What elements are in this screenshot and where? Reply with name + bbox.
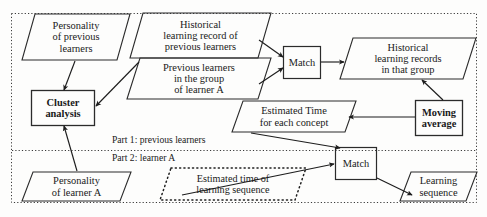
node-shape-moving-average — [416, 101, 463, 136]
node-shape-historical-records-group — [340, 38, 476, 79]
edge-personality-learner-a-to-cluster — [64, 126, 77, 171]
edge-match2-to-learning-sequence — [377, 178, 412, 195]
diagram-vector-layer — [0, 0, 487, 217]
node-shape-historical-record-previous — [130, 13, 271, 58]
edge-personality-previous-to-cluster — [64, 61, 75, 90]
node-shape-previous-learners-group — [127, 58, 271, 99]
edge-estimated-time-concept-to-match2 — [251, 133, 340, 148]
edge-historical-records-group-to-moving-average — [422, 80, 443, 100]
edge-historical-record-to-match1 — [259, 40, 283, 57]
node-shape-cluster-analysis — [32, 91, 95, 126]
flowchart-diagram: Personality of previous learners Histori… — [0, 0, 487, 217]
node-shape-match-2 — [336, 148, 377, 180]
node-shape-estimated-time-concept — [232, 101, 356, 132]
node-shape-learning-sequence — [400, 172, 477, 201]
node-shape-personality-previous — [22, 14, 130, 60]
node-shape-personality-learner-a — [22, 172, 131, 201]
part-1-label: Part 1: previous learners — [112, 134, 206, 145]
node-shape-estimated-time-sequence — [160, 168, 306, 200]
outer-dotted-boundary — [12, 14, 477, 203]
part-2-label: Part 2: learner A — [112, 152, 175, 163]
edge-group-to-match1 — [259, 68, 283, 84]
node-shape-match-1 — [284, 47, 321, 79]
